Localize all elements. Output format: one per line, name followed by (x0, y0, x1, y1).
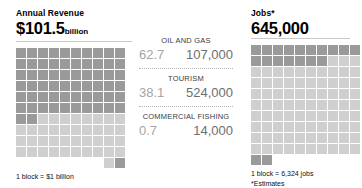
sector-jobs-value: 14,000 (193, 123, 233, 138)
grid-block (93, 81, 103, 91)
sector-figures: 0.714,000 (139, 123, 233, 138)
grid-block (251, 100, 261, 110)
grid-block (295, 111, 305, 121)
grid-block (60, 81, 70, 91)
sector-breakdown-list: OIL AND GAS62.7107,000TOURISM38.1524,000… (139, 36, 233, 138)
grid-block (251, 45, 261, 55)
grid-block (295, 78, 305, 88)
grid-block (82, 136, 92, 146)
grid-block (115, 81, 125, 91)
grid-block (339, 133, 349, 143)
grid-block (82, 70, 92, 80)
grid-block (339, 78, 349, 88)
sector-jobs-value: 107,000 (186, 47, 233, 62)
grid-block (339, 144, 349, 154)
grid-block (306, 45, 316, 55)
grid-block (317, 56, 327, 66)
grid-block (60, 48, 70, 58)
grid-block (251, 67, 261, 77)
grid-block (284, 45, 294, 55)
grid-block (16, 92, 26, 102)
grid-block (251, 122, 261, 132)
grid-block (115, 103, 125, 113)
grid-block (339, 100, 349, 110)
grid-block (49, 59, 59, 69)
jobs-panel: Jobs* 645,000 1 block = 6,324 jobs *Esti… (251, 8, 362, 188)
grid-block (273, 122, 283, 132)
grid-block (71, 103, 81, 113)
grid-block (262, 111, 272, 121)
grid-block (60, 147, 70, 157)
jobs-title: Jobs* (251, 8, 362, 19)
grid-block (350, 89, 360, 99)
annual-revenue-legend: 1 block = $1 billion (16, 172, 132, 182)
grid-block (251, 133, 261, 143)
revenue-grid-blocks (16, 48, 132, 157)
grid-block (104, 147, 114, 157)
grid-block (38, 136, 48, 146)
grid-block (295, 45, 305, 55)
grid-block (60, 136, 70, 146)
grid-block (251, 111, 261, 121)
grid-block (339, 45, 349, 55)
grid-block (350, 45, 360, 55)
grid-block (115, 136, 125, 146)
grid-block (27, 147, 37, 157)
grid-block (27, 70, 37, 80)
grid-block (16, 70, 26, 80)
grid-block (295, 100, 305, 110)
annual-revenue-divider (16, 41, 132, 42)
sector-figures: 62.7107,000 (139, 47, 233, 62)
sector-row: TOURISM38.1524,000 (139, 74, 233, 100)
grid-block (306, 122, 316, 132)
grid-block (82, 147, 92, 157)
grid-block (262, 78, 272, 88)
grid-block (104, 59, 114, 69)
sector-row: COMMERCIAL FISHING0.714,000 (139, 112, 233, 138)
grid-block (27, 92, 37, 102)
jobs-block-grid (251, 45, 362, 165)
grid-block (115, 48, 125, 58)
grid-block (49, 48, 59, 58)
grid-block (350, 78, 360, 88)
grid-block (328, 100, 338, 110)
grid-block (262, 45, 272, 55)
grid-block (27, 48, 37, 58)
grid-block (317, 122, 327, 132)
grid-block (16, 114, 26, 124)
grid-block (38, 48, 48, 58)
grid-block (49, 125, 59, 135)
grid-block (251, 56, 261, 66)
grid-block (317, 111, 327, 121)
grid-block (284, 133, 294, 143)
grid-block (350, 122, 360, 132)
grid-block (82, 92, 92, 102)
grid-block (49, 103, 59, 113)
grid-block (104, 114, 114, 124)
annual-revenue-block-grid (16, 48, 132, 168)
grid-block (93, 114, 103, 124)
grid-block (115, 70, 125, 80)
grid-block (71, 48, 81, 58)
grid-block (60, 103, 70, 113)
grid-block (339, 111, 349, 121)
grid-block (38, 81, 48, 91)
grid-block (93, 92, 103, 102)
grid-block (104, 81, 114, 91)
grid-block (104, 48, 114, 58)
jobs-divider (251, 38, 350, 39)
grid-block (284, 111, 294, 121)
grid-block (60, 70, 70, 80)
grid-block (317, 67, 327, 77)
grid-block (71, 92, 81, 102)
grid-block (49, 136, 59, 146)
grid-block (38, 114, 48, 124)
grid-block (16, 136, 26, 146)
grid-block (27, 136, 37, 146)
grid-block (93, 70, 103, 80)
sector-revenue-value: 38.1 (139, 85, 164, 100)
grid-block-spacer (27, 158, 37, 168)
sector-jobs-value: 524,000 (186, 85, 233, 100)
grid-block (104, 92, 114, 102)
annual-revenue-amount: $101.5 (16, 19, 65, 37)
